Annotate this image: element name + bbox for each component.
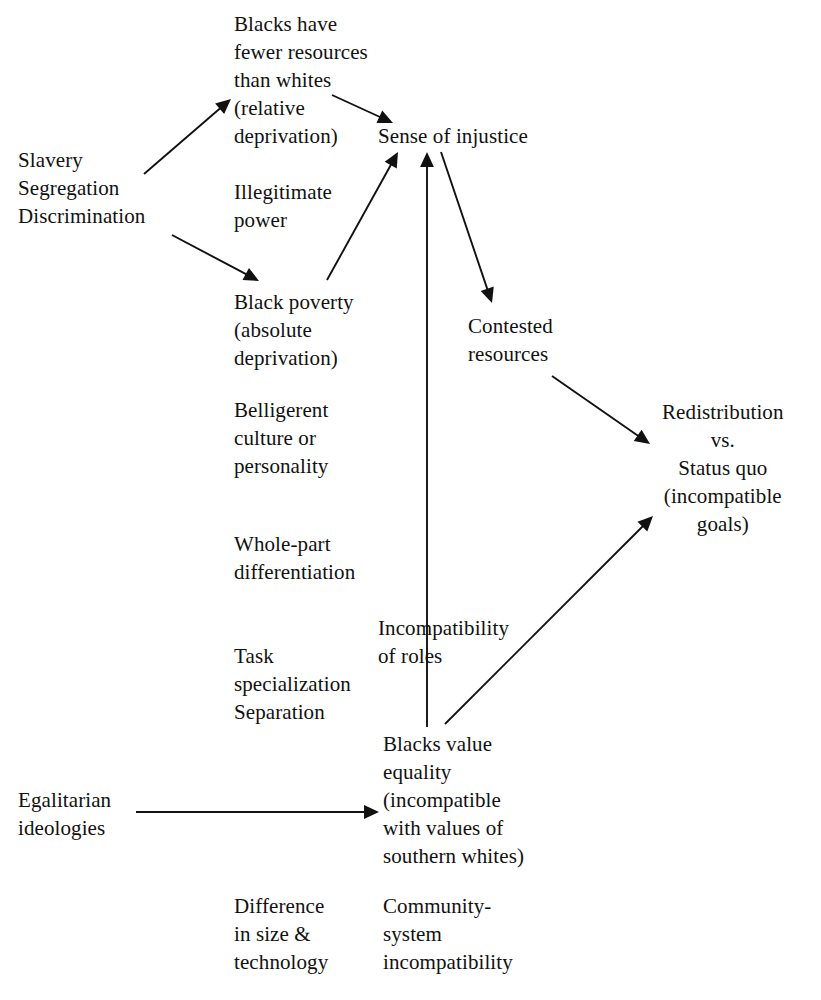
arrowhead-icon (638, 516, 653, 531)
arrowhead-icon (634, 430, 650, 444)
node-community-system-incompatibility: Community- system incompatibility (383, 892, 513, 976)
node-task-specialization-separation: Task specialization Separation (234, 642, 351, 726)
arrowhead-icon (364, 805, 379, 819)
edge-line (172, 235, 248, 275)
edge-slavery-to-black-poverty (172, 235, 259, 281)
edge-contested-resources-to-redistribution (552, 376, 650, 444)
arrowhead-icon (215, 99, 231, 114)
node-sense-of-injustice: Sense of injustice (378, 122, 528, 150)
arrowhead-icon (243, 268, 259, 281)
edge-sense-of-injustice-to-contested-resources (441, 152, 494, 303)
node-blacks-fewer-resources: Blacks have fewer resources than whites … (234, 10, 368, 150)
node-redistribution-vs-status-quo: Redistribution vs. Status quo (incompati… (662, 398, 784, 538)
edge-egalitarian-to-blacks-value-equality (136, 805, 379, 819)
node-black-poverty: Black poverty (absolute deprivation) (234, 288, 354, 372)
edge-line (552, 376, 640, 437)
edge-black-poverty-to-sense-of-injustice (327, 152, 398, 280)
edge-line (441, 152, 488, 292)
edge-line (144, 107, 222, 174)
arrowhead-icon (481, 287, 494, 303)
node-slavery-segregation-discrimination: Slavery Segregation Discrimination (18, 146, 145, 230)
node-blacks-value-equality: Blacks value equality (incompatible with… (383, 730, 524, 870)
edge-line (327, 162, 392, 280)
node-belligerent-culture: Belligerent culture or personality (234, 396, 328, 480)
edge-slavery-to-relative-deprivation (144, 99, 231, 174)
node-illegitimate-power: Illegitimate power (234, 178, 332, 234)
node-egalitarian-ideologies: Egalitarian ideologies (18, 786, 111, 842)
node-contested-resources: Contested resources (468, 312, 553, 368)
node-whole-part-differentiation: Whole-part differentiation (234, 530, 355, 586)
node-incompatibility-of-roles: Incompatibility of roles (378, 614, 509, 670)
diagram-canvas: Blacks have fewer resources than whites … (0, 0, 821, 1000)
node-difference-in-size-technology: Difference in size & technology (234, 892, 328, 976)
arrowhead-icon (385, 152, 398, 168)
arrowhead-icon (420, 152, 434, 167)
